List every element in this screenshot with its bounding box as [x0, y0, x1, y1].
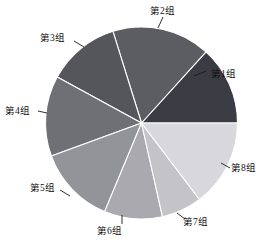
- pie-slice-label-6: 第6组: [97, 226, 122, 237]
- leader-line-3: [74, 41, 84, 47]
- pie-slice-label-4: 第4组: [5, 106, 30, 117]
- pie-slice-label-5: 第5组: [30, 183, 55, 194]
- pie-chart-figure: 第1组第2组第3组第4组第5组第6组第7组第8组: [0, 0, 275, 248]
- pie-slice-label-7: 第7组: [183, 217, 208, 228]
- pie-slice-label-2: 第2组: [150, 6, 175, 17]
- leader-line-2: [158, 17, 163, 28]
- leader-line-5: [60, 190, 70, 196]
- pie-slice-label-1: 第1组: [211, 69, 236, 80]
- pie-slice-label-8: 第8组: [231, 163, 256, 174]
- pie-slice-label-3: 第3组: [40, 33, 65, 44]
- pie-slices-group: [46, 27, 238, 219]
